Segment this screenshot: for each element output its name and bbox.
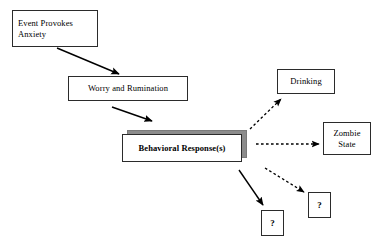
arrow-behavioral-to-drinking xyxy=(250,99,281,129)
flowchart-canvas: Event Provokes Anxiety Worry and Ruminat… xyxy=(0,0,382,246)
arrow-worry-to-behavioral xyxy=(112,107,152,121)
arrow-behavioral-to-unknown2 xyxy=(265,168,304,192)
arrow-event-to-worry xyxy=(57,48,119,74)
arrow-behavioral-to-unknown1 xyxy=(239,170,263,205)
flowchart-edges xyxy=(0,0,382,246)
